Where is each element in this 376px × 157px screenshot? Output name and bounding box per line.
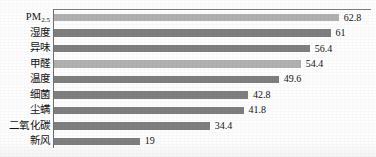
bar <box>54 14 339 22</box>
bar-value-label: 61 <box>336 28 346 38</box>
bar-row: 甲醛54.4 <box>54 56 371 71</box>
category-label: PM2.5 <box>26 12 50 24</box>
category-label: 温度 <box>30 74 50 85</box>
category-label: 甲醛 <box>30 59 50 70</box>
bar-row: PM2.562.8 <box>54 10 371 25</box>
bar <box>54 45 310 53</box>
bar-row: 二氧化碳34.4 <box>54 118 371 133</box>
bar-value-label: 56.4 <box>315 44 333 54</box>
bar-value-label: 19 <box>145 136 155 146</box>
plot-area: PM2.562.8湿度61异味56.4甲醛54.4温度49.6细菌42.8尘螨4… <box>53 9 371 148</box>
bar <box>54 138 140 146</box>
bar <box>54 122 210 130</box>
bar-value-label: 41.8 <box>248 105 266 115</box>
bar-row: 异味56.4 <box>54 41 371 56</box>
bar-row: 尘螨41.8 <box>54 103 371 118</box>
bar-value-label: 49.6 <box>284 74 302 84</box>
category-label-subscript: 2.5 <box>41 15 50 23</box>
category-label: 二氧化碳 <box>9 121 50 132</box>
category-label: 湿度 <box>30 28 50 39</box>
bar <box>54 29 331 37</box>
bar-value-label: 42.8 <box>253 90 271 100</box>
bar <box>54 60 301 68</box>
bar-value-label: 34.4 <box>215 121 233 131</box>
category-label: 新风 <box>30 136 50 147</box>
bar-row: 新风19 <box>54 134 371 149</box>
horizontal-bar-chart: PM2.562.8湿度61异味56.4甲醛54.4温度49.6细菌42.8尘螨4… <box>0 0 376 157</box>
category-label: 异味 <box>30 43 50 54</box>
bar-value-label: 62.8 <box>344 13 362 23</box>
category-label: 细菌 <box>30 90 50 101</box>
category-label: 尘螨 <box>30 105 50 116</box>
bar <box>54 76 279 84</box>
bar-value-label: 54.4 <box>306 59 324 69</box>
bar-row: 湿度61 <box>54 25 371 40</box>
bar-row: 温度49.6 <box>54 72 371 87</box>
bar <box>54 91 248 99</box>
bar-row: 细菌42.8 <box>54 87 371 102</box>
bar <box>54 107 244 115</box>
